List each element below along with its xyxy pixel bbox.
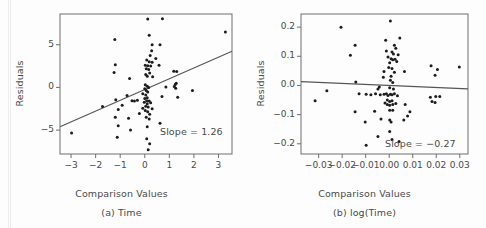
data-point <box>151 107 154 110</box>
data-point <box>388 61 391 64</box>
y-tick-label: −0.2 <box>255 138 295 148</box>
data-point <box>113 71 116 74</box>
data-point <box>384 39 387 42</box>
data-point <box>385 50 388 53</box>
data-point <box>146 125 149 128</box>
data-point <box>434 101 437 104</box>
data-point <box>382 76 385 79</box>
data-point <box>147 106 150 109</box>
data-point <box>383 70 386 73</box>
data-point <box>390 75 393 78</box>
data-point <box>154 57 157 60</box>
data-point <box>145 137 148 140</box>
data-point <box>127 117 130 120</box>
data-point <box>429 96 432 99</box>
data-point <box>391 109 394 112</box>
data-point <box>406 115 409 118</box>
data-point <box>146 91 149 94</box>
data-point <box>436 68 439 71</box>
data-point <box>392 87 395 90</box>
plot-frame-b <box>301 14 468 154</box>
data-point <box>151 43 154 46</box>
data-point <box>159 43 162 46</box>
data-point <box>138 112 141 115</box>
data-point <box>175 70 178 73</box>
data-point <box>149 54 152 57</box>
data-point <box>408 110 411 113</box>
data-point <box>144 94 147 97</box>
data-point <box>396 94 399 97</box>
data-point <box>376 135 379 138</box>
data-point <box>158 64 161 67</box>
data-point <box>147 68 150 71</box>
data-point <box>176 96 179 99</box>
x-tick-label: 0.03 <box>438 160 482 170</box>
data-point <box>117 124 120 127</box>
data-point <box>191 89 194 92</box>
y-tick-label: 0.2 <box>255 21 295 31</box>
data-point <box>387 55 390 58</box>
data-point <box>325 89 328 92</box>
data-point <box>159 122 162 125</box>
data-point <box>438 95 441 98</box>
panel-time: Residuals Comparison Values (a) Time Slo… <box>0 0 243 228</box>
data-point <box>404 103 407 106</box>
data-point <box>151 75 154 78</box>
y-tick-label: 0 <box>14 81 54 91</box>
data-point <box>354 44 357 47</box>
data-point <box>147 86 150 89</box>
data-point <box>398 36 401 39</box>
data-point <box>390 120 393 123</box>
data-point <box>365 93 368 96</box>
data-point <box>395 60 398 63</box>
y-tick-label: −0.1 <box>255 109 295 119</box>
data-point <box>172 70 175 73</box>
data-point <box>339 26 342 29</box>
data-point <box>141 107 144 110</box>
data-point <box>394 47 397 50</box>
data-point <box>373 110 376 113</box>
data-point <box>434 95 437 98</box>
data-point <box>358 92 361 95</box>
data-point <box>129 129 132 132</box>
data-point <box>146 18 149 21</box>
y-tick-label: −5 <box>14 124 54 134</box>
data-point <box>393 92 396 95</box>
data-point <box>70 132 73 135</box>
slope-annotation-a: Slope = 1.26 <box>160 126 223 137</box>
data-point <box>175 82 178 85</box>
data-point <box>434 74 437 77</box>
data-point <box>146 110 149 113</box>
data-point <box>374 92 377 95</box>
data-point <box>148 71 151 74</box>
data-point <box>148 118 151 121</box>
data-point <box>136 99 139 102</box>
x-axis-label-a: Comparison Values <box>0 188 243 199</box>
data-point <box>376 87 379 90</box>
data-point <box>349 54 352 57</box>
data-point <box>141 92 144 95</box>
data-point <box>388 86 391 89</box>
data-point <box>148 142 151 145</box>
slope-annotation-b: Slope = −0.27 <box>385 138 456 149</box>
data-point <box>354 110 357 113</box>
data-point <box>114 63 117 66</box>
data-point <box>164 85 167 88</box>
data-point <box>143 101 146 104</box>
data-point <box>314 99 317 102</box>
panel-caption-b: (b) log(Time) <box>243 207 486 218</box>
data-point <box>121 104 124 107</box>
data-point <box>388 104 391 107</box>
data-point <box>388 130 391 133</box>
data-point <box>403 70 406 73</box>
data-point <box>145 59 148 62</box>
data-point <box>388 109 391 112</box>
data-point <box>389 79 392 82</box>
panel-log-time: Residuals Comparison Values (b) log(Time… <box>243 0 486 228</box>
data-point <box>117 108 120 111</box>
data-point <box>126 94 129 97</box>
data-point <box>364 120 367 123</box>
data-point <box>116 136 119 139</box>
data-point <box>149 101 152 104</box>
data-point <box>101 105 104 108</box>
